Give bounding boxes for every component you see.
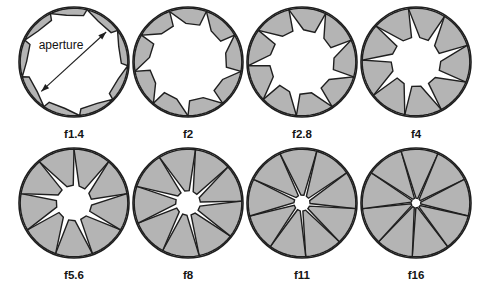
aperture-caption-f8: f8 bbox=[183, 269, 194, 281]
aperture-fstop-figure: aperture f1.4f2f2.8f4f5.6f8f11f16 bbox=[0, 0, 477, 288]
aperture-label: aperture bbox=[39, 38, 84, 52]
aperture-stop-f11 bbox=[247, 148, 357, 258]
aperture-caption-f2-8: f2.8 bbox=[292, 128, 312, 140]
aperture-stops-layer bbox=[19, 7, 471, 258]
aperture-caption-f2: f2 bbox=[183, 128, 193, 140]
aperture-caption-f16: f16 bbox=[408, 269, 425, 281]
aperture-stop-f2 bbox=[133, 7, 243, 117]
aperture-caption-f11: f11 bbox=[294, 269, 311, 281]
aperture-stop-f5-6 bbox=[19, 148, 129, 258]
aperture-diagram-canvas: aperture f1.4f2f2.8f4f5.6f8f11f16 bbox=[0, 0, 477, 288]
aperture-caption-f5-6: f5.6 bbox=[64, 269, 84, 281]
aperture-stop-f4 bbox=[361, 7, 471, 117]
aperture-stop-f8 bbox=[133, 148, 243, 258]
aperture-caption-f1-4: f1.4 bbox=[64, 128, 84, 140]
aperture-stop-f16 bbox=[361, 148, 471, 258]
aperture-caption-f4: f4 bbox=[411, 128, 422, 140]
aperture-stop-f2-8 bbox=[247, 7, 357, 117]
